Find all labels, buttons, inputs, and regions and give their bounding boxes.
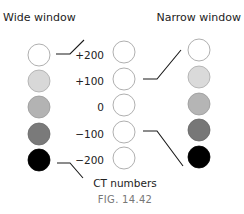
narrow-shade-2 bbox=[188, 93, 210, 115]
ct-number-labels: +200 +100 0 −100 −200 bbox=[75, 49, 104, 166]
ct-label-2: 0 bbox=[97, 101, 104, 113]
narrow-shade-4 bbox=[188, 146, 210, 168]
wide-shade-3 bbox=[28, 123, 50, 145]
ct-circle-0 bbox=[113, 41, 135, 63]
figure-label: FIG. 14.42 bbox=[98, 194, 152, 205]
narrow-shade-3 bbox=[188, 119, 210, 141]
ct-circle-2 bbox=[113, 94, 135, 116]
wide-shade-1 bbox=[28, 70, 50, 92]
wide-shade-2 bbox=[28, 96, 50, 118]
ct-label-0: +200 bbox=[75, 49, 104, 61]
narrow-window-scale bbox=[188, 39, 210, 168]
wide-window-title: Wide window bbox=[3, 11, 76, 24]
narrow-shade-0 bbox=[188, 39, 210, 61]
narrow-upper-limit-line bbox=[143, 50, 181, 79]
wide-shade-4 bbox=[28, 149, 50, 171]
ct-numbers-caption: CT numbers bbox=[93, 177, 157, 189]
ct-label-4: −200 bbox=[75, 154, 104, 166]
ct-circle-1 bbox=[113, 68, 135, 90]
ct-label-1: +100 bbox=[75, 75, 104, 87]
ct-number-scale bbox=[113, 41, 135, 169]
narrow-shade-1 bbox=[188, 66, 210, 88]
narrow-window-title: Narrow window bbox=[156, 11, 241, 24]
wide-shade-0 bbox=[28, 44, 50, 66]
wide-window-scale bbox=[28, 44, 50, 171]
ct-label-3: −100 bbox=[75, 128, 104, 140]
narrow-lower-limit-line bbox=[143, 131, 183, 166]
ct-circle-4 bbox=[113, 147, 135, 169]
ct-circle-3 bbox=[113, 121, 135, 143]
ct-window-diagram: Wide window Narrow window +200 +100 0 −1… bbox=[0, 0, 244, 214]
